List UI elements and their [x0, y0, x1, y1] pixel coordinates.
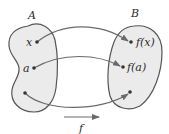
point-p	[23, 91, 27, 95]
label-fa: f(a)	[126, 61, 146, 74]
label-fx: f(x)	[135, 36, 155, 49]
point-x	[35, 40, 39, 44]
label-a: a	[23, 62, 30, 75]
set-b-label: B	[130, 7, 139, 20]
point-fa	[121, 65, 125, 69]
set-a-label: A	[27, 9, 36, 22]
point-fp	[128, 90, 132, 94]
point-a	[32, 66, 36, 70]
function-label: f	[78, 122, 85, 134]
label-x: x	[26, 36, 33, 49]
function-diagram: A B x a f(x) f(a) f	[0, 0, 169, 134]
point-fx	[129, 40, 133, 44]
